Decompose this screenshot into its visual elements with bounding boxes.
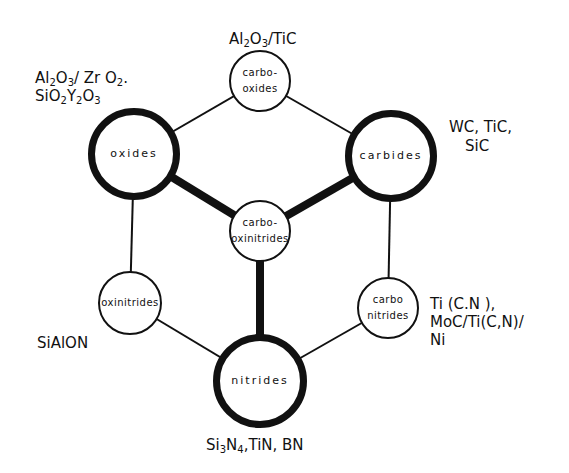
node-circle	[358, 278, 418, 338]
node-nitrides: nitrides	[217, 338, 304, 425]
node-label: nitrides	[231, 374, 288, 387]
nodes: carbo-oxidesoxidescarbidescarbo-oxinitri…	[92, 51, 434, 425]
annotation-carbonitrides-line3: Ni	[430, 331, 445, 349]
node-circle	[230, 201, 290, 261]
node-label: carbides	[360, 149, 423, 162]
node-oxinitrides: oxinitrides	[99, 272, 161, 334]
node-carbonitrides: carbonitrides	[358, 278, 418, 338]
node-label: carbo-	[243, 217, 278, 228]
node-label: oxinitrides	[101, 297, 159, 308]
annotation-carbo-oxides: Al2O3/TiC	[229, 30, 296, 53]
annotation-carbonitrides-line2: MoC/Ti(C,N)/	[430, 313, 524, 331]
annotation-carbides-line1: WC, TiC,	[449, 118, 512, 136]
node-carbo-oxinitrides: carbo-oxinitrides	[230, 201, 290, 261]
node-label: oxides	[242, 83, 277, 94]
node-carbo-oxides: carbo-oxides	[230, 51, 290, 111]
node-label: carbo-	[243, 67, 278, 78]
annotation-nitrides: Si3N4,TiN, BN	[206, 436, 304, 459]
annotation-carbides-line2: SiC	[465, 137, 489, 155]
node-label: oxinitrides	[231, 233, 289, 244]
node-label: oxides	[110, 147, 157, 160]
annotation-oxides-line2: SiO2Y2O3	[35, 87, 101, 110]
node-oxides: oxides	[92, 112, 177, 197]
node-carbides: carbides	[349, 114, 434, 199]
annotation-oxinitrides: SiAlON	[37, 334, 88, 352]
node-label: carbo	[373, 294, 404, 305]
annotation-carbonitrides-line1: Ti (C.N ),	[430, 295, 495, 313]
node-circle	[230, 51, 290, 111]
node-label: nitrides	[367, 310, 409, 321]
